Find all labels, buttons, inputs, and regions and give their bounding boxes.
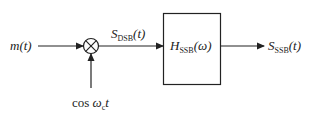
output-sub: SSB — [275, 46, 289, 55]
dsb-sub: DSB — [118, 34, 134, 43]
filter-label: HSSB(ω) — [170, 39, 211, 55]
filter-arg: (ω) — [194, 38, 212, 53]
input-label: m(t) — [10, 39, 32, 52]
multiplier-icon — [84, 39, 99, 54]
input-arg: (t) — [19, 38, 31, 53]
output-label: SSSB(t) — [268, 39, 301, 55]
carrier-omega: ω — [93, 95, 102, 110]
carrier-label: cos ωct — [72, 96, 109, 112]
diagram-lines — [0, 0, 316, 117]
ssb-modulation-block-diagram: m(t) SDSB(t) cos ωct HSSB(ω) SSSB(t) — [0, 0, 316, 117]
input-name: m — [10, 38, 19, 53]
filter-sub: SSB — [179, 46, 193, 55]
carrier-func: cos — [72, 95, 93, 110]
dsb-label: SDSB(t) — [111, 27, 145, 43]
dsb-arg: (t) — [133, 26, 145, 41]
filter-name: H — [170, 38, 179, 53]
carrier-var: t — [105, 95, 109, 110]
output-arg: (t) — [289, 38, 301, 53]
